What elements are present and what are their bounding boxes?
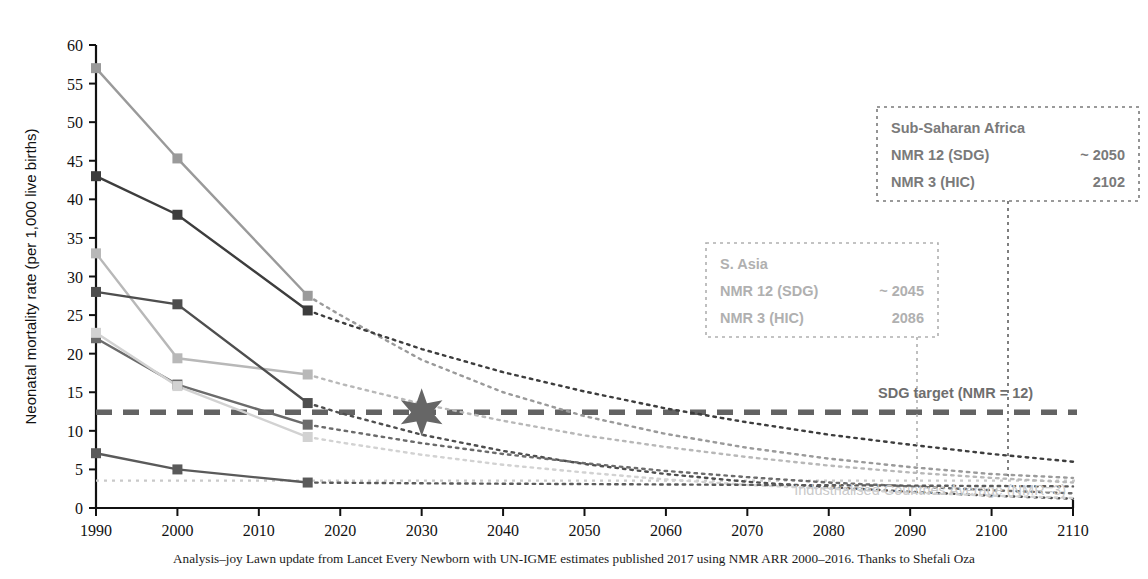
annotations-layer: Sub-Saharan AfricaNMR 12 (SDG)~ 2050NMR … xyxy=(706,107,1139,480)
x-tick-label: 2060 xyxy=(650,522,682,539)
annotation-row-label: NMR 3 (HIC) xyxy=(891,174,975,190)
x-tick-label: 2070 xyxy=(731,522,763,539)
annotation-title: Sub-Saharan Africa xyxy=(891,120,1026,136)
series-line-0 xyxy=(96,68,308,296)
x-tick-label: 2090 xyxy=(894,522,926,539)
series-marker xyxy=(172,210,182,220)
x-tick-label: 2010 xyxy=(243,522,275,539)
series-marker xyxy=(91,63,101,73)
series-marker xyxy=(303,420,313,430)
y-tick-label: 25 xyxy=(67,307,83,324)
y-tick-label: 10 xyxy=(67,423,83,440)
annotation-s-asia: S. AsiaNMR 12 (SDG)~ 2045NMR 3 (HIC)2086 xyxy=(706,243,938,337)
series-marker xyxy=(172,464,182,474)
x-tick-label: 2080 xyxy=(813,522,845,539)
annotation-row-label: NMR 3 (HIC) xyxy=(720,310,804,326)
chart-caption: Analysis–joy Lawn update from Lancet Eve… xyxy=(173,551,975,566)
y-tick-label: 30 xyxy=(67,269,83,286)
series-marker xyxy=(172,153,182,163)
series-marker xyxy=(303,398,313,408)
markers-layer xyxy=(91,63,442,487)
series-line-6 xyxy=(96,453,308,482)
y-tick-label: 35 xyxy=(67,230,83,247)
axes-layer xyxy=(89,45,1073,516)
x-tick-label: 2100 xyxy=(976,522,1008,539)
series-line-3 xyxy=(96,292,308,403)
series-marker xyxy=(172,381,182,391)
series-marker xyxy=(91,287,101,297)
nmr-projection-chart: Sub-Saharan AfricaNMR 12 (SDG)~ 2050NMR … xyxy=(0,0,1148,579)
series-marker xyxy=(303,370,313,380)
series-line-1 xyxy=(96,176,308,310)
y-tick-label: 40 xyxy=(67,191,83,208)
series-marker xyxy=(91,448,101,458)
x-tick-label: 2020 xyxy=(324,522,356,539)
y-tick-label: 5 xyxy=(75,461,83,478)
series-marker xyxy=(303,478,313,488)
series-marker xyxy=(172,299,182,309)
annotation-row-label: NMR 12 (SDG) xyxy=(891,147,989,163)
x-tick-label: 2000 xyxy=(161,522,193,539)
annotation-row-value: 2086 xyxy=(892,310,924,326)
x-tick-label: 2030 xyxy=(406,522,438,539)
annotation-row-value: ~ 2050 xyxy=(1080,147,1125,163)
y-tick-label: 20 xyxy=(67,346,83,363)
y-tick-label: 55 xyxy=(67,76,83,93)
chart-page: Sub-Saharan AfricaNMR 12 (SDG)~ 2050NMR … xyxy=(0,0,1148,579)
annotation-row-label: NMR 12 (SDG) xyxy=(720,283,818,299)
y-tick-label: 60 xyxy=(67,37,83,54)
y-tick-label: 0 xyxy=(75,500,83,517)
series-line-5 xyxy=(96,333,308,437)
x-tick-label: 2040 xyxy=(487,522,519,539)
x-tick-label: 1990 xyxy=(80,522,112,539)
series-marker xyxy=(303,305,313,315)
series-marker xyxy=(303,432,313,442)
series-marker xyxy=(172,353,182,363)
annotation-row-value: 2102 xyxy=(1093,174,1125,190)
series-lines-layer xyxy=(96,68,308,482)
series-marker xyxy=(303,291,313,301)
series-marker xyxy=(91,328,101,338)
annotation-title: S. Asia xyxy=(720,256,769,272)
industrialised-average-label: Industrialised Countries Average (NMR=3) xyxy=(794,482,1066,498)
series-marker xyxy=(91,171,101,181)
y-axis-title: Neonatal mortality rate (per 1,000 live … xyxy=(22,129,39,425)
y-tick-label: 50 xyxy=(67,114,83,131)
series-marker xyxy=(91,248,101,258)
x-tick-label: 2110 xyxy=(1057,522,1088,539)
sdg-target-label: SDG target (NMR = 12) xyxy=(878,385,1033,401)
annotation-sub-saharan-africa: Sub-Saharan AfricaNMR 12 (SDG)~ 2050NMR … xyxy=(877,107,1139,201)
annotation-row-value: ~ 2045 xyxy=(879,283,924,299)
y-tick-label: 15 xyxy=(67,384,83,401)
x-tick-label: 2050 xyxy=(569,522,601,539)
y-tick-label: 45 xyxy=(67,153,83,170)
